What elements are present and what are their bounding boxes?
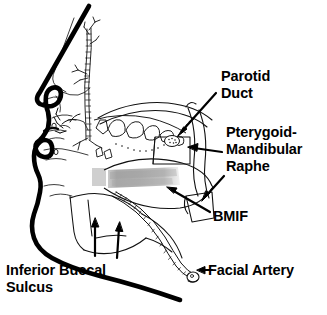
pterygoid-line2: Mandibular bbox=[226, 141, 302, 157]
label-facial-artery: Facial Artery bbox=[208, 262, 294, 279]
inferior-buccal-line1: Inferior Buccal bbox=[6, 262, 106, 278]
inferior-buccal-line2: Sulcus bbox=[6, 279, 53, 295]
anatomy-figure: ParotidDuct Pterygoid-MandibularRaphe BM… bbox=[0, 0, 327, 315]
parotid-duct-line2: Duct bbox=[221, 85, 253, 101]
label-pterygomandibular-raphe: Pterygoid-MandibularRaphe bbox=[226, 124, 302, 175]
label-inferior-buccal-sulcus: Inferior BuccalSulcus bbox=[6, 262, 106, 296]
label-parotid-duct: ParotidDuct bbox=[221, 68, 270, 102]
parotid-duct-line1: Parotid bbox=[221, 68, 270, 84]
pterygoid-line1: Pterygoid- bbox=[226, 124, 297, 140]
pterygoid-line3: Raphe bbox=[226, 158, 270, 174]
label-bmif: BMIF bbox=[213, 208, 248, 225]
buccinator-muscle-band bbox=[92, 167, 180, 188]
